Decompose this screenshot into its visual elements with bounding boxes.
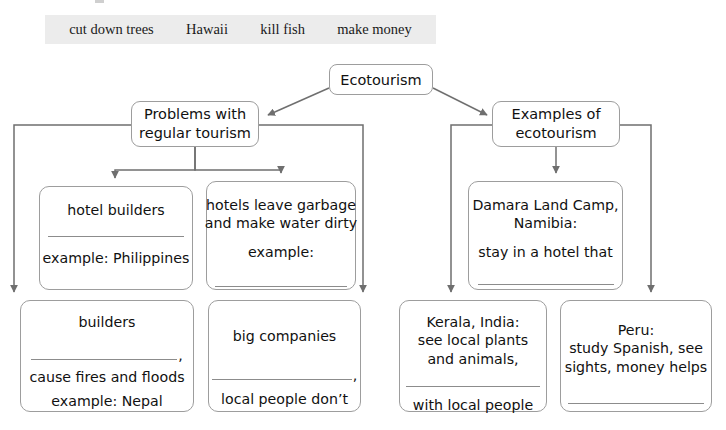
- node-kerala-line-4: with local people: [413, 396, 533, 414]
- node-problems-line-2: regular tourism: [139, 124, 251, 143]
- node-hotel-builders: hotel builders example: Philippines: [39, 186, 193, 290]
- node-kerala-line-2: see local plants: [418, 331, 529, 349]
- node-builders-line-3: example: Nepal: [51, 392, 162, 410]
- word-bank-item-0[interactable]: cut down trees: [69, 21, 154, 38]
- node-peru: Peru: study Spanish, see sights, money h…: [560, 300, 712, 412]
- node-big-companies-line-1: big companies: [233, 327, 337, 345]
- node-builders-blank-row: ,: [21, 345, 193, 359]
- node-builders-blank[interactable]: [31, 358, 177, 360]
- node-hotels-garbage-blank[interactable]: [215, 285, 347, 287]
- node-big-companies-line-2: local people don’t: [221, 390, 348, 408]
- node-peru-line-2: study Spanish, see: [569, 339, 703, 357]
- word-bank-item-2[interactable]: kill fish: [260, 21, 305, 38]
- word-bank: cut down trees Hawaii kill fish make mon…: [45, 15, 436, 44]
- node-damara-line-3: stay in a hotel that: [478, 243, 612, 261]
- node-builders-line-2: cause fires and floods: [29, 368, 184, 386]
- node-big-companies-blank-comma: ,: [352, 368, 358, 382]
- node-damara-land-camp: Damara Land Camp, Namibia: stay in a hot…: [468, 181, 623, 290]
- node-ecotourism-label: Ecotourism: [340, 72, 421, 88]
- node-problems-with-regular-tourism: Problems with regular tourism: [131, 101, 259, 147]
- node-hotel-builders-line-1: hotel builders: [67, 201, 164, 219]
- node-hotel-builders-blank[interactable]: [48, 235, 184, 237]
- node-kerala-line-3: and animals,: [427, 350, 518, 368]
- node-problems-line-1: Problems with: [144, 105, 246, 124]
- word-bank-item-1[interactable]: Hawaii: [186, 21, 228, 38]
- node-ecotourism: Ecotourism: [329, 64, 433, 95]
- node-hotel-builders-line-2: example: Philippines: [43, 249, 190, 267]
- node-builders: builders , cause fires and floods exampl…: [20, 300, 194, 412]
- node-big-companies-blank-row: ,: [209, 365, 360, 379]
- node-damara-blank[interactable]: [478, 283, 614, 285]
- node-hotels-leave-garbage: hotels leave garbage and make water dirt…: [206, 181, 356, 290]
- node-builders-line-1: builders: [79, 313, 136, 331]
- worksheet-page: cut down trees Hawaii kill fish make mon…: [0, 0, 726, 430]
- node-peru-line-3: sights, money helps: [565, 358, 708, 376]
- scan-crop-mark: [95, 0, 104, 3]
- word-bank-item-3[interactable]: make money: [337, 21, 412, 38]
- node-damara-line-2: Namibia:: [514, 214, 578, 232]
- node-hotels-garbage-line-3: example:: [248, 243, 314, 261]
- node-builders-blank-comma: ,: [177, 348, 183, 362]
- node-examples-of-ecotourism: Examples of ecotourism: [492, 101, 620, 147]
- node-damara-line-1: Damara Land Camp,: [472, 196, 618, 214]
- node-big-companies-blank[interactable]: [212, 378, 352, 380]
- node-kerala-blank[interactable]: [406, 386, 540, 387]
- node-examples-line-1: Examples of: [511, 105, 600, 124]
- node-kerala-line-1: Kerala, India:: [426, 313, 519, 331]
- node-peru-line-1: Peru:: [618, 321, 654, 339]
- node-examples-line-2: ecotourism: [515, 124, 596, 143]
- node-big-companies: big companies , local people don’t: [208, 300, 361, 412]
- node-peru-blank[interactable]: [568, 402, 704, 404]
- node-kerala-india: Kerala, India: see local plants and anim…: [399, 300, 547, 412]
- node-hotels-garbage-line-2: and make water dirty: [205, 214, 357, 232]
- node-hotels-garbage-line-1: hotels leave garbage: [206, 196, 356, 214]
